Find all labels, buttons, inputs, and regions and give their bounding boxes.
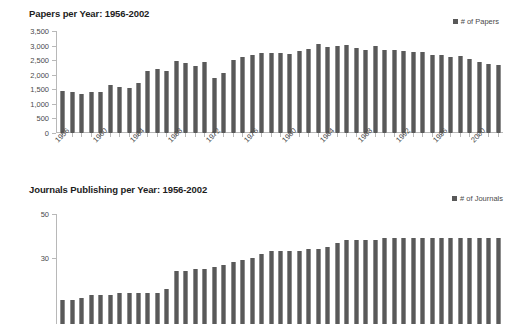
x-label-slot: 1976 — [247, 138, 256, 168]
bar-slot — [352, 31, 361, 133]
bar-slot — [238, 214, 247, 324]
bar — [325, 247, 330, 324]
bar — [202, 269, 207, 324]
bar — [183, 271, 188, 324]
bar-slot — [172, 214, 181, 324]
bar-slot — [219, 214, 228, 324]
bar — [430, 238, 435, 324]
x-label-slot: 1992 — [399, 138, 408, 168]
papers-per-year-chart: Papers per Year: 1956-2002 # of Papers 3… — [0, 0, 509, 180]
x-label-slot — [333, 138, 342, 168]
x-axis-tick — [488, 133, 489, 137]
bar — [335, 46, 340, 133]
bar — [79, 298, 84, 324]
bar-slot — [494, 31, 503, 133]
bar — [306, 249, 311, 324]
x-label-slot — [228, 138, 237, 168]
bar — [401, 51, 406, 133]
bar-slot — [408, 214, 417, 324]
bar-slot — [446, 31, 455, 133]
x-axis-tick — [375, 133, 376, 137]
bar — [240, 57, 245, 133]
bar-slot — [67, 31, 76, 133]
bar — [316, 249, 321, 324]
x-axis-tick — [81, 133, 82, 137]
bar — [439, 55, 444, 133]
bar-slot — [58, 31, 67, 133]
bar-slot — [437, 214, 446, 324]
bar — [98, 295, 103, 324]
bar-slot — [266, 214, 275, 324]
journals-publishing-per-year-chart: Journals Publishing per Year: 1956-2002 … — [0, 180, 509, 299]
bar — [183, 63, 188, 133]
x-label-slot: 1996 — [437, 138, 446, 168]
bar-slot — [465, 214, 474, 324]
bar — [316, 44, 321, 133]
bar — [287, 54, 292, 133]
bar-slot — [181, 31, 190, 133]
x-axis-tick — [223, 133, 224, 137]
bar — [363, 50, 368, 133]
bar — [297, 251, 302, 324]
papers-legend-label: # of Papers — [461, 17, 499, 26]
x-axis-tick — [185, 133, 186, 137]
bar — [136, 293, 141, 324]
bar-slot — [285, 31, 294, 133]
x-axis-tick — [460, 133, 461, 137]
square-marker-icon — [452, 196, 457, 201]
bar — [287, 251, 292, 324]
bar-slot — [162, 214, 171, 324]
bar — [269, 53, 274, 133]
y-axis-tick-label: 2,500 — [30, 56, 49, 65]
x-tick-slot — [115, 133, 124, 137]
bar — [411, 238, 416, 324]
x-axis-tick — [261, 133, 262, 137]
bar — [420, 52, 425, 133]
bar — [259, 53, 264, 133]
bar-slot — [304, 31, 313, 133]
bar-slot — [285, 214, 294, 324]
bar — [108, 85, 113, 133]
bar — [335, 243, 340, 324]
x-tick-slot — [77, 133, 86, 137]
x-label-slot: 1956 — [58, 138, 67, 168]
bar — [344, 240, 349, 324]
papers-x-axis-labels: 1956196019641968197219761980198419881992… — [56, 138, 503, 168]
bar — [231, 60, 236, 133]
bar-slot — [456, 31, 465, 133]
bar — [127, 88, 132, 133]
bar-slot — [219, 31, 228, 133]
bar-slot — [266, 31, 275, 133]
bar — [496, 65, 501, 133]
bar-slot — [124, 214, 133, 324]
y-axis-tick-label: 0 — [45, 129, 49, 138]
bar-slot — [389, 31, 398, 133]
bar-slot — [465, 31, 474, 133]
y-axis-tick-label: 30 — [41, 254, 49, 263]
bar — [448, 57, 453, 133]
y-axis-tick-label: 2,000 — [30, 70, 49, 79]
bar-slot — [105, 214, 114, 324]
x-label-slot — [219, 138, 228, 168]
x-label-slot — [115, 138, 124, 168]
x-label-slot: 1980 — [285, 138, 294, 168]
x-label-slot — [304, 138, 313, 168]
bar-slot — [484, 31, 493, 133]
bar — [231, 262, 236, 324]
bar-slot — [342, 31, 351, 133]
journals-chart-title: Journals Publishing per Year: 1956-2002 — [29, 184, 207, 195]
bar — [411, 52, 416, 133]
bar — [278, 53, 283, 133]
bar-slot — [153, 214, 162, 324]
bar-slot — [238, 31, 247, 133]
bar — [202, 62, 207, 133]
bar — [155, 69, 160, 133]
bar — [392, 50, 397, 133]
x-label-slot: 1964 — [134, 138, 143, 168]
x-label-slot: 1988 — [361, 138, 370, 168]
bar-slot — [143, 31, 152, 133]
bar-slot — [427, 31, 436, 133]
bar — [269, 251, 274, 324]
bar — [117, 87, 122, 133]
x-axis-tick — [147, 133, 148, 137]
